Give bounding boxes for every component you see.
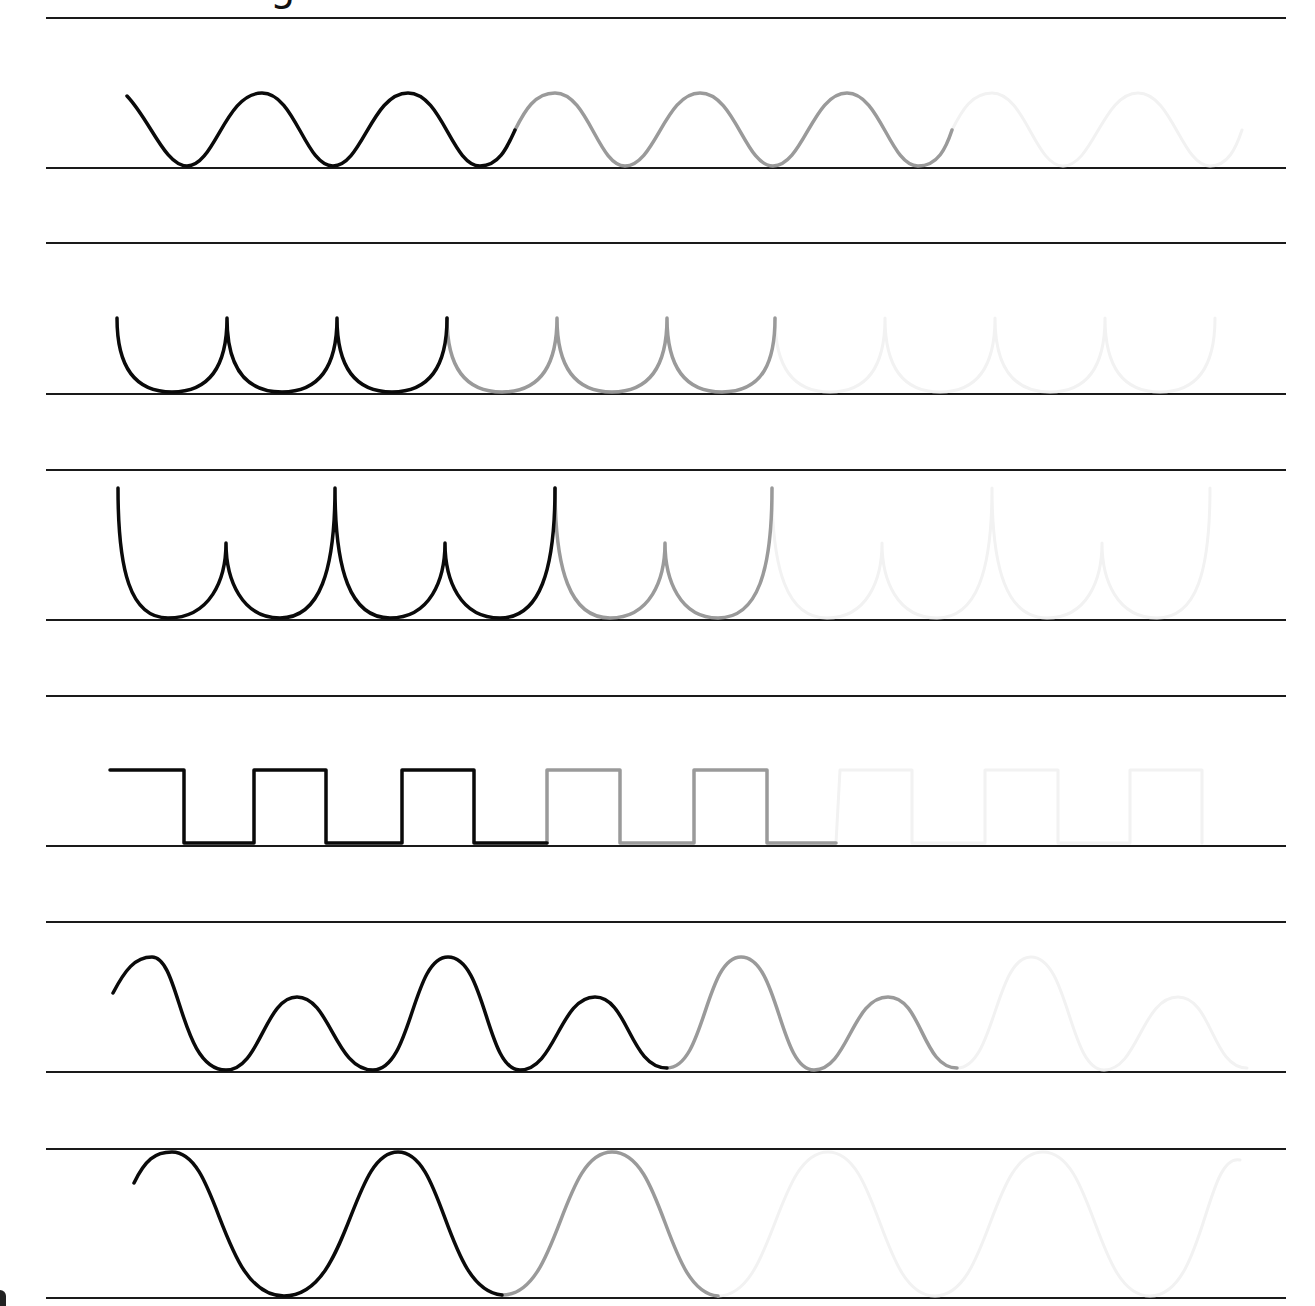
ghost-trace [775, 318, 1215, 392]
tracing-rows [110, 93, 1247, 1296]
gray-trace [667, 957, 957, 1070]
solid-trace [134, 1152, 502, 1296]
ghost-trace [718, 1152, 1240, 1296]
tracing-row-6 [134, 1152, 1240, 1296]
ghost-trace [957, 957, 1247, 1070]
solid-trace [118, 488, 555, 618]
guide-lines [46, 18, 1286, 1298]
solid-trace [127, 93, 515, 166]
gray-trace [515, 93, 952, 166]
solid-trace [113, 957, 667, 1070]
ghost-trace [836, 770, 1202, 843]
ghost-trace [952, 93, 1242, 166]
tracing-row-1 [127, 93, 1242, 166]
gray-trace [502, 1152, 718, 1296]
tracing-row-3 [118, 488, 1210, 618]
gray-trace [547, 770, 836, 843]
tracing-row-5 [113, 957, 1247, 1070]
ghost-trace [772, 488, 1210, 618]
tracing-row-4 [110, 770, 1202, 843]
page-edge-mark [0, 1290, 6, 1306]
tracing-row-2 [117, 318, 1215, 392]
tracing-worksheet [0, 0, 1315, 1306]
gray-trace [447, 318, 775, 392]
gray-trace [555, 488, 772, 618]
solid-trace [110, 770, 547, 843]
solid-trace [117, 318, 447, 392]
